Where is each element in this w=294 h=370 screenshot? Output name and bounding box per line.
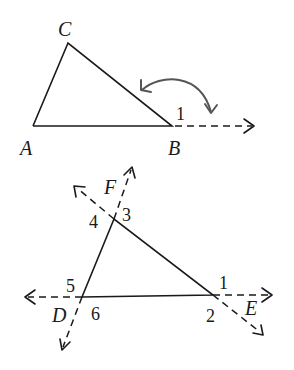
angle-label-6: 6 bbox=[91, 304, 100, 324]
angle-label-2: 2 bbox=[206, 306, 215, 326]
arrowhead-down-right-icon bbox=[253, 325, 263, 335]
point-label-f: F bbox=[103, 176, 117, 198]
vertex-label-a: A bbox=[18, 137, 33, 159]
point-label-e: E bbox=[244, 297, 257, 319]
angle-label-3: 3 bbox=[122, 205, 131, 225]
angle-label-4: 4 bbox=[89, 212, 98, 232]
arrowhead-down-left-icon bbox=[60, 339, 70, 350]
triangle-def bbox=[82, 219, 213, 297]
arrowhead-up-left-icon bbox=[74, 186, 85, 197]
vertex-label-b: B bbox=[168, 137, 180, 159]
figure-bottom: F D E 4 3 5 6 1 2 bbox=[25, 167, 272, 350]
vertex-label-c: C bbox=[58, 18, 72, 40]
angle-label-1: 1 bbox=[176, 104, 185, 124]
angle-label-5: 5 bbox=[66, 276, 75, 296]
geometry-diagram: C A B 1 F D E 4 3 5 6 1 2 bbox=[0, 0, 294, 370]
angle-label-1b: 1 bbox=[219, 273, 228, 293]
curved-arrowhead-right-icon bbox=[205, 104, 217, 113]
figure-top: C A B 1 bbox=[18, 18, 254, 159]
point-label-d: D bbox=[51, 304, 67, 326]
